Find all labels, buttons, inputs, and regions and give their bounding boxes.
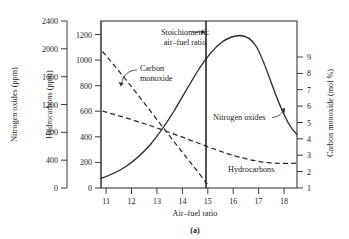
nox-tick-0: 0 bbox=[54, 184, 58, 193]
nitrogen-oxides-axis-title: Nitrogen oxides (ppm) bbox=[10, 67, 19, 142]
hc-tick-0: 0 bbox=[88, 184, 92, 193]
hydrocarbons-axis-title: Hydrocarbons (ppm) bbox=[45, 70, 54, 139]
carbon-monoxide-label-line2: monoxide bbox=[140, 74, 173, 83]
hydrocarbons-curve bbox=[103, 111, 298, 163]
co-tick-1: 1 bbox=[307, 184, 311, 193]
data-curves bbox=[101, 36, 297, 187]
hc-tick-200: 200 bbox=[80, 158, 92, 167]
hc-tick-400: 400 bbox=[80, 133, 92, 142]
co-tick-3: 3 bbox=[307, 151, 311, 160]
x-tick-12: 12 bbox=[128, 197, 136, 206]
hydrocarbons-label: Hydrocarbons bbox=[228, 165, 274, 174]
co-tick-9: 9 bbox=[307, 53, 311, 62]
hydrocarbons-annotation: Hydrocarbons bbox=[228, 165, 274, 174]
emissions-vs-air-fuel-ratio-chart: 2400 2000 1600 1200 800 400 0 Nitrogen o… bbox=[0, 0, 349, 239]
air-fuel-ratio-axis: 11 12 13 14 15 16 17 18 Air–fuel ratio bbox=[102, 188, 288, 218]
x-tick-15: 15 bbox=[204, 197, 212, 206]
carbon-monoxide-ticks bbox=[297, 57, 303, 188]
hc-tick-1000: 1000 bbox=[76, 56, 92, 65]
nox-tick-2400: 2400 bbox=[42, 17, 58, 26]
stoichiometric-annotation: Stoichiometric air–fuel ratio bbox=[161, 28, 210, 47]
hydrocarbons-ticks bbox=[95, 35, 101, 189]
carbon-monoxide-annotation: Carbon monoxide bbox=[119, 64, 173, 87]
nitrogen-oxides-label: Nitrogen oxides bbox=[213, 113, 266, 122]
nitrogen-oxides-annotation: Nitrogen oxides bbox=[213, 108, 285, 122]
stoichiometric-label-line2: air–fuel ratio bbox=[164, 38, 207, 47]
carbon-monoxide-axis: 9 8 7 6 5 4 3 2 1 Carbon monoxide (mol %… bbox=[297, 53, 335, 193]
x-ticks bbox=[106, 188, 284, 194]
carbon-monoxide-arrowhead bbox=[119, 82, 124, 87]
x-tick-14: 14 bbox=[178, 197, 186, 206]
co-tick-4: 4 bbox=[307, 135, 311, 144]
nox-tick-2000: 2000 bbox=[42, 45, 58, 54]
x-tick-11: 11 bbox=[102, 197, 110, 206]
nitrogen-oxides-axis: 2400 2000 1600 1200 800 400 0 Nitrogen o… bbox=[10, 17, 67, 193]
x-axis-title: Air–fuel ratio bbox=[173, 209, 218, 218]
nox-tick-400: 400 bbox=[46, 156, 58, 165]
x-tick-17: 17 bbox=[255, 197, 263, 206]
figure-container: 2400 2000 1600 1200 800 400 0 Nitrogen o… bbox=[0, 0, 349, 239]
carbon-monoxide-axis-title: Carbon monoxide (mol %) bbox=[326, 69, 335, 157]
co-tick-2: 2 bbox=[307, 168, 311, 177]
carbon-monoxide-label-line1: Carbon bbox=[140, 64, 164, 73]
co-tick-8: 8 bbox=[307, 69, 311, 78]
co-tick-5: 5 bbox=[307, 119, 311, 128]
x-tick-16: 16 bbox=[229, 197, 237, 206]
hc-tick-800: 800 bbox=[80, 82, 92, 91]
x-tick-18: 18 bbox=[280, 197, 288, 206]
nitrogen-oxides-ticks bbox=[61, 21, 67, 188]
hc-tick-600: 600 bbox=[80, 107, 92, 116]
figure-caption: (a) bbox=[190, 226, 200, 235]
co-tick-7: 7 bbox=[307, 86, 311, 95]
x-tick-13: 13 bbox=[153, 197, 161, 206]
co-tick-6: 6 bbox=[307, 102, 311, 111]
nitrogen-oxides-curve bbox=[101, 36, 297, 179]
hc-tick-1200: 1200 bbox=[76, 31, 92, 40]
